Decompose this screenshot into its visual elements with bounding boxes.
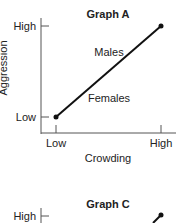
data-point-low bbox=[54, 115, 59, 120]
x-tick-label-low: Low bbox=[46, 137, 66, 149]
graph-c-title: Graph C bbox=[86, 198, 129, 210]
y-tick-label-low: Low bbox=[16, 111, 36, 123]
y-axis-title: Aggression bbox=[0, 40, 9, 95]
graph-c-y-tick-label-high: High bbox=[13, 210, 36, 222]
graph-c-data-point bbox=[159, 213, 164, 218]
graph-c: Graph C High bbox=[13, 198, 163, 223]
label-females: Females bbox=[88, 92, 131, 104]
x-axis-title: Crowding bbox=[85, 152, 131, 164]
y-tick-label-high: High bbox=[13, 20, 36, 32]
label-males: Males bbox=[94, 46, 124, 58]
data-point-high bbox=[159, 24, 164, 29]
x-tick-label-high: High bbox=[150, 137, 173, 149]
chart-canvas: Graph A High Low Low High Crowding Aggre… bbox=[0, 0, 180, 223]
graph-a-title: Graph A bbox=[87, 8, 130, 20]
graph-a: Graph A High Low Low High Crowding Aggre… bbox=[0, 8, 176, 164]
